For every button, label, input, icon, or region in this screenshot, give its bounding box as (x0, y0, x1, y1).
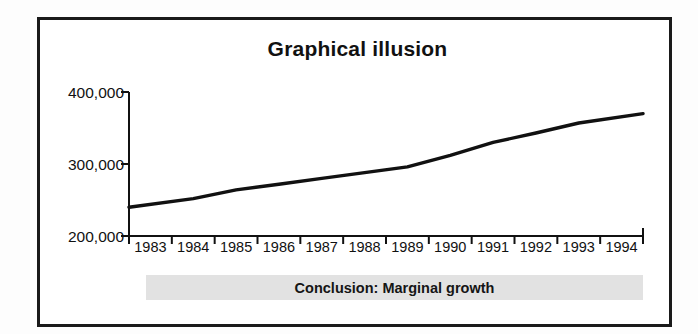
x-axis-tick-labels: 1983198419851986198719881989199019911992… (129, 239, 643, 255)
figure-frame: Graphical illusion (37, 17, 672, 327)
conclusion-banner: Conclusion: Marginal growth (146, 275, 643, 300)
x-tick-label-1987: 1987 (300, 239, 343, 255)
conclusion-label: Conclusion: Marginal growth (295, 280, 495, 296)
x-tick-label-1992: 1992 (514, 239, 557, 255)
scanned-page-background: Graphical illusion (0, 0, 698, 334)
x-tick-label-1985: 1985 (215, 239, 258, 255)
x-tick-label-1994: 1994 (600, 239, 643, 255)
x-tick-label-1990: 1990 (429, 239, 472, 255)
x-tick-label-1984: 1984 (172, 239, 215, 255)
x-tick-label-1991: 1991 (472, 239, 515, 255)
x-tick-label-1986: 1986 (257, 239, 300, 255)
x-tick-label-1988: 1988 (343, 239, 386, 255)
x-tick-label-1983: 1983 (129, 239, 172, 255)
data-series-line (129, 114, 643, 208)
plot-area: 400,000 300,000 200,000 1983198419851986… (40, 20, 675, 330)
x-tick-label-1993: 1993 (557, 239, 600, 255)
x-tick-label-1989: 1989 (386, 239, 429, 255)
